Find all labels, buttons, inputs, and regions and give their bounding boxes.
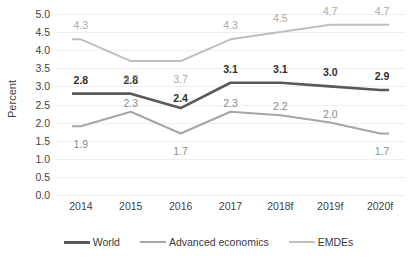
y-axis-tick-label: 3.5 [22,63,50,73]
line-chart: Percent 0.00.51.01.52.02.53.03.54.04.55.… [0,0,417,262]
legend-item-world[interactable]: World [64,236,120,248]
x-axis-tick-label: 2014 [69,200,92,212]
y-axis-tick-label: 1.5 [22,136,50,146]
x-axis-tick-label: 2015 [119,200,142,212]
data-label: 2.9 [375,71,390,82]
legend-item-advanced-economics[interactable]: Advanced economics [140,236,269,248]
gridline [56,195,405,196]
legend-label: EMDEs [318,236,354,248]
data-label: 1.9 [74,139,89,150]
data-label: 2.8 [74,75,89,86]
data-label: 1.7 [375,146,390,157]
x-axis-ticks: 20142015201620172018f2019f2020f [56,200,405,216]
data-label: 3.1 [273,64,288,75]
data-label: 2.4 [173,93,188,104]
data-label: 4.7 [375,6,390,17]
data-label: 3.0 [323,67,338,78]
data-label: 4.3 [74,20,89,31]
data-label: 3.7 [173,74,188,85]
y-axis-title: Percent [6,64,18,134]
y-axis-tick-label: 3.0 [22,81,50,91]
x-axis-tick-label: 2020f [367,200,393,212]
y-axis-tick-label: 4.5 [22,27,50,37]
data-label: 4.3 [223,20,238,31]
data-label: 2.0 [323,109,338,120]
chart-legend: WorldAdvanced economicsEMDEs [0,236,417,248]
data-label: 2.2 [273,101,288,112]
legend-label: Advanced economics [169,236,269,248]
legend-item-emdes[interactable]: EMDEs [289,236,354,248]
series-line-advanced-economics [72,112,389,134]
y-axis-tick-label: 5.0 [22,9,50,19]
x-axis-tick-label: 2018f [267,200,293,212]
y-axis-tick-label: 0.0 [22,190,50,200]
data-label: 1.7 [173,146,188,157]
x-axis-tick-label: 2017 [219,200,242,212]
data-label: 4.5 [273,13,288,24]
data-label: 2.3 [223,98,238,109]
data-label: 3.1 [223,64,238,75]
legend-swatch-line-icon [64,241,90,244]
legend-label: World [93,236,120,248]
data-label: 2.3 [123,98,138,109]
y-axis-tick-label: 4.0 [22,45,50,55]
x-axis-tick-label: 2019f [317,200,343,212]
plot-area: 0.00.51.01.52.02.53.03.54.04.55.0 2.82.8… [56,14,405,195]
legend-swatch-line-icon [140,241,166,244]
y-axis-tick-label: 2.5 [22,100,50,110]
y-axis-tick-label: 2.0 [22,118,50,128]
y-axis-tick-label: 1.0 [22,154,50,164]
y-axis-tick-label: 0.5 [22,172,50,182]
data-label: 4.7 [323,6,338,17]
legend-swatch-line-icon [289,241,315,244]
x-axis-tick-label: 2016 [169,200,192,212]
data-label: 3.7 [123,74,138,85]
